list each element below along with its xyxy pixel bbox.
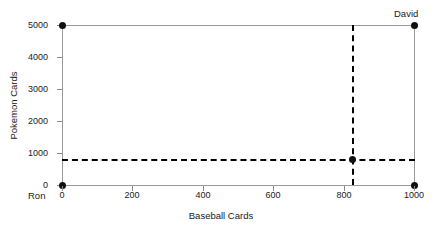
data-point-label-david: David (394, 8, 418, 19)
y-tick-label-0: 0 (14, 180, 48, 190)
y-tick-label-2000: 2000 (14, 116, 48, 126)
x-tick-label-1000: 1000 (394, 190, 434, 200)
y-tick-label-1000: 1000 (14, 148, 48, 158)
plot-frame-left (62, 25, 63, 186)
x-axis-title: Baseball Cards (0, 210, 442, 221)
x-tick-label-0: 0 (42, 190, 82, 200)
plot-frame-top (62, 25, 415, 26)
x-tick-label-800: 800 (324, 190, 364, 200)
data-point-top-left (59, 22, 66, 29)
x-tick-label-400: 400 (183, 190, 223, 200)
y-tick-label-4000: 4000 (14, 52, 48, 62)
y-tick-label-5000: 5000 (14, 20, 48, 30)
reference-line-horizontal (62, 159, 415, 161)
y-tick-label-3000: 3000 (14, 84, 48, 94)
x-tick-label-200: 200 (112, 190, 152, 200)
scatter-chart: Pokemon Cards Baseball Cards 5000 4000 3… (0, 0, 442, 233)
data-point-intersection (349, 156, 356, 163)
plot-frame-right (414, 25, 415, 186)
plot-frame-bottom (62, 185, 415, 186)
x-tick-label-600: 600 (253, 190, 293, 200)
data-point-david (411, 22, 418, 29)
